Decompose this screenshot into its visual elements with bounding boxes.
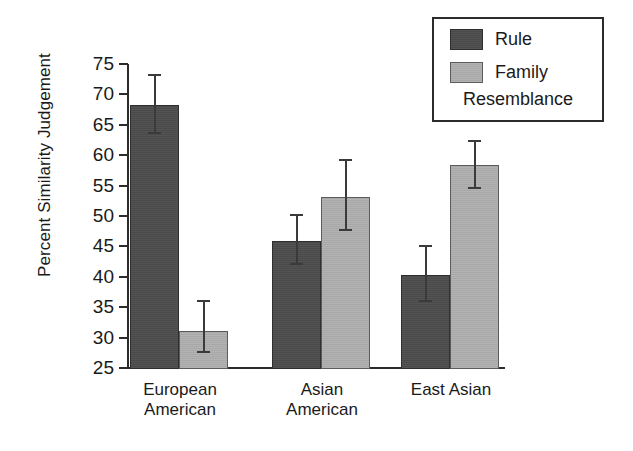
y-tick-label-text: 50 bbox=[74, 206, 114, 225]
error-bar-rule-1 bbox=[296, 214, 298, 264]
y-tick-label-text: 60 bbox=[74, 145, 114, 164]
y-tick-label: 45 bbox=[72, 236, 114, 255]
y-tick-label: 25 bbox=[72, 358, 114, 377]
bar-family-2 bbox=[450, 165, 499, 369]
y-tick-label-text: 75 bbox=[74, 54, 114, 73]
y-tick-label: 55 bbox=[72, 176, 114, 195]
y-tick-label: 60 bbox=[72, 145, 114, 164]
error-cap-top-family-2 bbox=[468, 140, 481, 142]
y-tick-label-text: 70 bbox=[74, 84, 114, 103]
legend-label-family: Family bbox=[495, 62, 548, 83]
legend-item-rule: Rule bbox=[450, 29, 532, 50]
error-bar-family-2 bbox=[474, 140, 476, 189]
error-bar-family-0 bbox=[203, 300, 205, 353]
error-cap-bottom-rule-0 bbox=[148, 132, 161, 134]
error-cap-bottom-rule-2 bbox=[419, 300, 432, 302]
legend-swatch-rule bbox=[450, 29, 483, 50]
bar-chart: Percent Similarity Judgement 75706560555… bbox=[0, 0, 633, 451]
y-tick-label: 70 bbox=[72, 84, 114, 103]
error-cap-top-rule-1 bbox=[290, 214, 303, 216]
error-cap-top-family-1 bbox=[339, 159, 352, 161]
x-tick-label-2: East Asian bbox=[371, 380, 531, 400]
error-bar-family-1 bbox=[345, 159, 347, 231]
y-tick-label: 65 bbox=[72, 115, 114, 134]
legend-swatch-family-resemblance bbox=[450, 62, 483, 83]
legend: Rule Family Resemblance bbox=[432, 17, 604, 122]
y-tick-label: 35 bbox=[72, 297, 114, 316]
y-axis-title: Percent Similarity Judgement bbox=[35, 0, 55, 330]
y-tick-label-text: 65 bbox=[74, 115, 114, 134]
legend-label-family-continued: Resemblance bbox=[434, 89, 602, 110]
error-cap-bottom-family-0 bbox=[197, 351, 210, 353]
error-cap-bottom-rule-1 bbox=[290, 263, 303, 265]
error-cap-bottom-family-1 bbox=[339, 229, 352, 231]
y-tick-label: 75 bbox=[72, 54, 114, 73]
y-tick-label-text: 55 bbox=[74, 176, 114, 195]
y-tick-label-text: 35 bbox=[74, 297, 114, 316]
y-tick-label: 50 bbox=[72, 206, 114, 225]
error-cap-top-family-0 bbox=[197, 300, 210, 302]
y-tick-label-text: 30 bbox=[74, 328, 114, 347]
legend-item-family-resemblance: Family bbox=[450, 62, 548, 83]
bar-rule-0 bbox=[130, 105, 179, 369]
error-bar-rule-0 bbox=[154, 74, 156, 134]
y-tick-label-text: 45 bbox=[74, 236, 114, 255]
x-tick-label-0: European American bbox=[100, 380, 260, 420]
y-tick-label: 40 bbox=[72, 267, 114, 286]
error-cap-bottom-family-2 bbox=[468, 187, 481, 189]
y-tick-label: 30 bbox=[72, 328, 114, 347]
error-bar-rule-2 bbox=[425, 245, 427, 302]
y-tick-label-text: 25 bbox=[74, 358, 114, 377]
error-cap-top-rule-2 bbox=[419, 245, 432, 247]
legend-label-rule: Rule bbox=[495, 29, 532, 50]
y-tick-label-text: 40 bbox=[74, 267, 114, 286]
error-cap-top-rule-0 bbox=[148, 74, 161, 76]
